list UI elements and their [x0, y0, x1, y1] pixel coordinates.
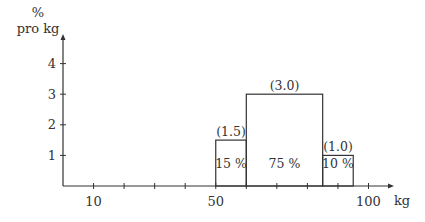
bar-percent-label: 15 %: [215, 156, 247, 171]
histogram-chart: 10501001234 (1.5)15 %(3.0)75 %(1.0)10 % …: [0, 0, 425, 222]
histogram-bar: [246, 94, 322, 186]
bar-density-label: (1.0): [323, 139, 353, 154]
bar-density-label: (1.5): [216, 124, 246, 139]
y-axis-arrow-icon: [61, 34, 66, 40]
y-tick-label: 4: [48, 56, 56, 71]
axis-labels: % pro kg kg: [17, 5, 410, 208]
y-tick-label: 2: [48, 117, 56, 132]
x-tick-label: 50: [207, 194, 224, 209]
y-axis-label-unit: pro kg: [17, 21, 60, 36]
axes: 10501001234: [48, 34, 394, 209]
y-tick-label: 1: [48, 148, 56, 163]
bar-percent-label: 75 %: [269, 156, 301, 171]
bar-density-label: (3.0): [270, 78, 300, 93]
bar-percent-label: 10 %: [322, 156, 354, 171]
x-axis-arrow-icon: [388, 184, 394, 189]
y-axis-label-percent: %: [32, 5, 44, 20]
x-axis-label: kg: [394, 193, 410, 208]
y-tick-label: 3: [48, 87, 56, 102]
x-tick-label: 10: [85, 194, 102, 209]
x-tick-label: 100: [356, 194, 381, 209]
histogram-bars: (1.5)15 %(3.0)75 %(1.0)10 %: [215, 78, 354, 186]
